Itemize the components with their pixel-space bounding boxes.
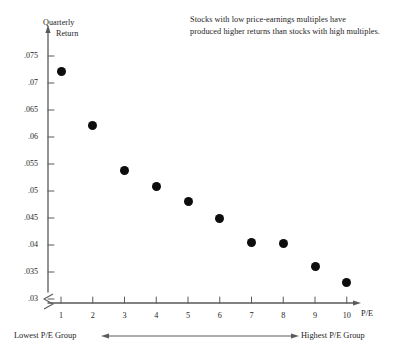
data-point — [57, 67, 66, 76]
data-point — [215, 214, 224, 223]
data-point — [152, 182, 161, 191]
x-axis-arrowhead — [353, 300, 361, 305]
data-point — [311, 262, 320, 271]
range-label-highest: Highest P/E Group — [301, 331, 365, 340]
y-axis-break-symbol — [44, 294, 53, 309]
data-point — [120, 166, 129, 175]
data-point — [184, 197, 193, 206]
y-axis-arrowhead — [45, 25, 50, 33]
scatter-chart-figure: Stocks with low price-earnings multiples… — [0, 0, 401, 358]
range-arrow-left-head — [101, 334, 109, 339]
data-point — [279, 239, 288, 248]
range-arrow-right-head — [291, 334, 299, 339]
chart-axes — [0, 0, 401, 358]
range-label-lowest: Lowest P/E Group — [14, 331, 76, 340]
